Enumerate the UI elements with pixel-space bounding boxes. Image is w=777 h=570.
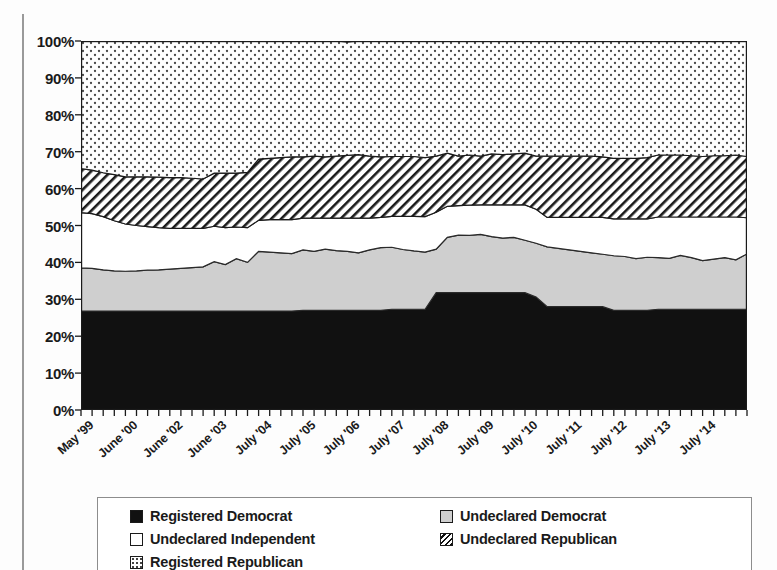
chart-root: 0%10%20%30%40%50%60%70%80%90%100% May '9…	[0, 0, 777, 570]
x-tick-label: June '02	[140, 418, 185, 460]
y-tick-label: 100%	[37, 33, 74, 50]
legend-label: Undeclared Democrat	[460, 509, 606, 524]
legend-swatch-icon	[440, 533, 453, 546]
y-tick-label: 0%	[53, 402, 74, 419]
legend-item[interactable]: Registered Democrat	[130, 505, 430, 528]
legend-label: Registered Democrat	[150, 509, 292, 524]
y-tick-label: 80%	[45, 106, 74, 123]
y-axis-labels: 0%10%20%30%40%50%60%70%80%90%100%	[0, 0, 74, 420]
legend-swatch-icon	[440, 510, 453, 523]
legend-swatch-icon	[130, 556, 143, 569]
legend-swatch-icon	[130, 533, 143, 546]
x-tick-label: July '05	[276, 418, 318, 458]
legend-item[interactable]: Undeclared Democrat	[440, 505, 740, 528]
x-tick-label: July '11	[543, 418, 584, 457]
x-tick-label: July '09	[454, 418, 496, 458]
legend-item[interactable]: Undeclared Republican	[440, 528, 740, 551]
legend-item[interactable]: Registered Republican	[130, 551, 430, 570]
x-tick-label: July '14	[676, 418, 718, 458]
legend-item[interactable]: Undeclared Independent	[130, 528, 430, 551]
y-tick-label: 40%	[45, 254, 74, 271]
plot-area	[81, 41, 747, 410]
x-tick-label: July '07	[365, 418, 407, 458]
x-tick-label: July '12	[587, 418, 629, 458]
x-tick-label: July '08	[410, 418, 452, 458]
area-series-group	[81, 41, 747, 410]
y-tick-label: 50%	[45, 217, 74, 234]
y-tick-label: 20%	[45, 328, 74, 345]
x-tick-label: July '04	[232, 418, 274, 458]
stacked-area-chart	[81, 41, 747, 410]
x-tick-label: July '10	[498, 418, 540, 458]
x-tick-label: July '06	[321, 418, 363, 458]
legend-swatch-icon	[130, 510, 143, 523]
y-tick-label: 60%	[45, 180, 74, 197]
chart-legend: Registered DemocratUndeclared DemocratUn…	[97, 497, 752, 570]
x-tick-label: June '00	[96, 418, 141, 460]
y-tick-label: 90%	[45, 69, 74, 86]
x-axis-labels: May '99June '00June '02June '03July '04J…	[81, 414, 761, 484]
x-tick-label: July '13	[632, 418, 674, 458]
legend-grid: Registered DemocratUndeclared DemocratUn…	[130, 505, 740, 570]
y-tick-label: 10%	[45, 365, 74, 382]
legend-label: Undeclared Republican	[460, 532, 617, 547]
y-tick-label: 30%	[45, 291, 74, 308]
y-tick-label: 70%	[45, 143, 74, 160]
legend-label: Undeclared Independent	[150, 532, 315, 547]
x-tick-label: June '03	[185, 418, 230, 460]
legend-label: Registered Republican	[150, 555, 303, 570]
